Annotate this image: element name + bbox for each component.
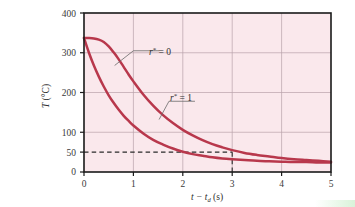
- x-tick-label-4: 4: [279, 179, 284, 189]
- y-tick-label-200: 200: [62, 88, 77, 98]
- temperature-decay-chart: 0 50 100 200 300 400 0 1 2 3 4 5 T (°C) …: [0, 0, 355, 207]
- curve-label-r-star-1: r* = 1: [170, 92, 192, 103]
- y-tick-label-300: 300: [62, 48, 77, 58]
- y-tick-label-100: 100: [62, 128, 77, 138]
- y-axis-title-units: (°C): [41, 84, 52, 100]
- y-tick-label-0: 0: [71, 167, 76, 177]
- curve-label-0-eq: = 0: [156, 47, 171, 57]
- x-tick-label-1: 1: [131, 179, 136, 189]
- curve-label-1-eq: = 1: [177, 93, 192, 103]
- x-axis-title-lead: t − t: [191, 192, 208, 202]
- x-tick-label-3: 3: [230, 179, 235, 189]
- figure-container: 0 50 100 200 300 400 0 1 2 3 4 5 T (°C) …: [0, 0, 355, 207]
- x-axis-title-units: (s): [211, 192, 223, 203]
- y-tick-label-50: 50: [67, 148, 77, 158]
- x-tick-label-0: 0: [82, 179, 87, 189]
- x-tick-label-2: 2: [180, 179, 185, 189]
- y-axis-title-symbol: T: [41, 102, 51, 108]
- x-tick-label-5: 5: [329, 179, 334, 189]
- x-axis-title: t − td (s): [191, 192, 223, 203]
- y-axis-title: T (°C): [41, 84, 52, 108]
- y-tick-label-400: 400: [62, 9, 77, 19]
- curve-label-r-star-0: r* = 0: [149, 46, 171, 57]
- x-tick-labels: 0 1 2 3 4 5: [82, 179, 334, 189]
- y-tick-labels: 0 50 100 200 300 400: [62, 9, 77, 178]
